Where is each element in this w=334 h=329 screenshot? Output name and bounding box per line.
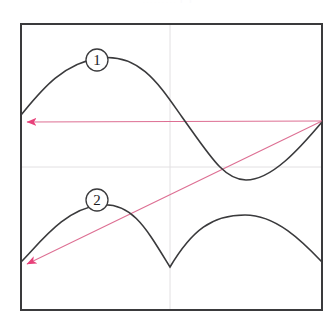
curve-1-callout: 1	[86, 49, 108, 71]
curve-2-callout: 2	[86, 189, 108, 211]
annotation-arrow-upper-left	[27, 121, 322, 264]
diagram-canvas: 1 2	[0, 0, 334, 329]
curve-lower-rectified-sine	[21, 205, 322, 267]
annotation-arrow-lower-left	[27, 121, 322, 122]
curve-2-callout-label: 2	[93, 192, 101, 208]
figure-container: ……… ( ) 1 2	[0, 0, 334, 329]
curve-upper-sine	[21, 57, 322, 180]
curve-1-callout-label: 1	[93, 52, 101, 68]
